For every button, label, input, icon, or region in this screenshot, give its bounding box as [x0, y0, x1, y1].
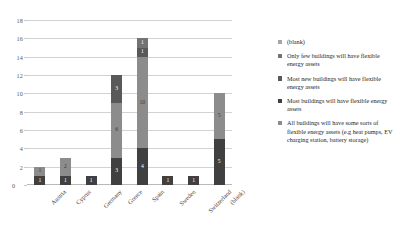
bar-segment: 1 — [137, 48, 148, 57]
bar-segment: 3 — [111, 158, 122, 186]
x-axis-category-label: Cyprus — [75, 188, 93, 206]
bar-column[interactable]: 1 — [86, 176, 97, 185]
legend-label: Most new buildings will have flexible en… — [287, 75, 397, 91]
bar-segment: 1 — [86, 176, 97, 185]
bar-series-container: 11121363410111155 — [27, 20, 232, 185]
legend-label: Most buildings will have flexible energy… — [287, 97, 397, 113]
bar-segment: 5 — [214, 93, 225, 139]
legend-item[interactable]: Most new buildings will have flexible en… — [278, 75, 397, 91]
legend-item[interactable]: All buildings will have some sorts of fl… — [278, 119, 397, 144]
x-axis-category-label: Sweden — [178, 188, 197, 207]
y-axis-tick-label: 6 — [20, 127, 23, 134]
stacked-bar-chart: 24681012141618 11121363410111155 Austria… — [0, 0, 397, 243]
bar-segment: 1 — [34, 167, 45, 176]
bar-column[interactable]: 41011 — [137, 38, 148, 185]
plot-area: 24681012141618 11121363410111155 Austria… — [0, 0, 250, 243]
x-axis-category-label: Greece — [126, 188, 143, 205]
y-axis-tick-label: 18 — [17, 17, 23, 24]
legend-swatch-icon — [278, 76, 282, 80]
y-axis-tick-label: 12 — [17, 72, 23, 79]
bar-segment: 1 — [137, 38, 148, 47]
bar-segment: 1 — [162, 176, 173, 185]
bar-segment: 2 — [60, 158, 71, 176]
bar-segment: 1 — [60, 176, 71, 185]
legend-item[interactable]: (blank) — [278, 38, 397, 46]
x-axis-category-label: Germany — [102, 188, 123, 209]
bar-segment: 6 — [111, 103, 122, 158]
x-axis-category-label: Spain — [150, 188, 165, 203]
bar-column[interactable]: 12 — [60, 158, 71, 185]
y-axis-tick-label: 2 — [20, 163, 23, 170]
legend-label: All buildings will have some sorts of fl… — [287, 119, 397, 144]
legend-swatch-icon — [278, 40, 282, 44]
y-axis-tick-label: 10 — [17, 90, 23, 97]
x-axis-category-label: Austria — [49, 188, 67, 206]
bar-column[interactable]: 11 — [34, 167, 45, 185]
y-axis-tick-label: 16 — [17, 35, 23, 42]
bar-segment: 4 — [137, 148, 148, 185]
chart-legend: (blank)Only few buildings will have flex… — [278, 38, 397, 150]
legend-swatch-icon — [278, 54, 282, 58]
bar-column[interactable]: 1 — [162, 176, 173, 185]
bar-segment: 10 — [137, 57, 148, 149]
bar-column[interactable]: 1 — [188, 176, 199, 185]
legend-label: (blank) — [287, 38, 397, 46]
y-axis: 24681012141618 — [0, 20, 26, 185]
bar-column[interactable]: 55 — [214, 93, 225, 185]
bar-column[interactable]: 363 — [111, 75, 122, 185]
y-axis-zero-label: 0 — [12, 182, 15, 189]
legend-label: Only few buildings will have flexible en… — [287, 52, 397, 68]
y-axis-tick-label: 4 — [20, 145, 23, 152]
x-axis-labels: AustriaCyprusGermanyGreeceSpainSwedenSwi… — [27, 186, 232, 243]
legend-swatch-icon — [278, 99, 282, 103]
bar-segment: 1 — [34, 176, 45, 185]
bar-segment: 5 — [214, 139, 225, 185]
legend-item[interactable]: Only few buildings will have flexible en… — [278, 52, 397, 68]
y-axis-tick-label: 8 — [20, 108, 23, 115]
bar-segment: 3 — [111, 75, 122, 103]
bar-segment: 1 — [188, 176, 199, 185]
y-axis-tick-label: 14 — [17, 53, 23, 60]
legend-item[interactable]: Most buildings will have flexible energy… — [278, 97, 397, 113]
legend-swatch-icon — [278, 121, 282, 125]
